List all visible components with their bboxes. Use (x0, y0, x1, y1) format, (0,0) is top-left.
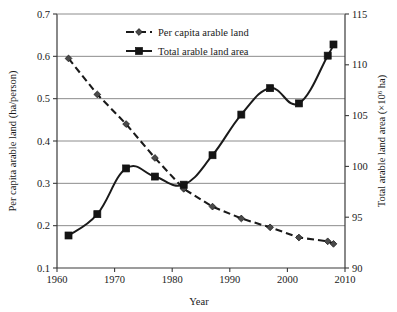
y-axis-tick-label: 0.7 (37, 9, 50, 20)
x-axis-tick-label: 1990 (219, 274, 240, 285)
x-axis-tick-label: 1980 (162, 274, 183, 285)
x-axis-tick-label: 2010 (335, 274, 356, 285)
y-axis-tick-label: 0.3 (37, 178, 50, 189)
y2-axis-tick-label: 115 (352, 9, 367, 20)
data-point-square (65, 232, 72, 239)
y-axis-tick-label: 0.4 (37, 136, 51, 147)
x-axis-title: Year (189, 296, 209, 307)
data-point-square (295, 100, 302, 107)
data-point-square (151, 173, 158, 180)
chart-figure: 0.10.20.30.40.50.60.79095100105110115196… (0, 0, 397, 312)
x-axis-tick-label: 1970 (104, 274, 125, 285)
chart-canvas: 0.10.20.30.40.50.60.79095100105110115196… (0, 0, 397, 312)
y-axis-tick-label: 0.5 (37, 93, 50, 104)
data-point-square (123, 165, 130, 172)
legend-label: Total arable land area (158, 46, 249, 57)
y2-axis-tick-label: 100 (352, 161, 368, 172)
y2-axis-tick-label: 95 (352, 212, 363, 223)
x-axis-tick-label: 1960 (47, 274, 68, 285)
data-point-square (209, 152, 216, 159)
y2-axis-tick-label: 105 (352, 110, 368, 121)
y-axis-tick-label: 0.1 (37, 263, 50, 274)
y2-axis-tick-label: 110 (352, 59, 367, 70)
data-point-square (330, 41, 337, 48)
data-point-square (136, 48, 143, 55)
data-point-square (267, 85, 274, 92)
y2-title-prefix: Total arable land area (×10 (376, 94, 388, 207)
y-axis-tick-label: 0.2 (37, 220, 50, 231)
data-point-square (238, 111, 245, 118)
data-point-square (94, 211, 101, 218)
y-axis-title: Per capita arable land (ha/person) (7, 70, 19, 212)
data-point-square (324, 52, 331, 59)
y2-title-suffix: ha) (376, 74, 388, 91)
y2-axis-tick-label: 90 (352, 263, 363, 274)
x-axis-tick-label: 2000 (277, 274, 298, 285)
legend-label: Per capita arable land (158, 27, 249, 38)
data-point-square (180, 181, 187, 188)
y-axis-tick-label: 0.6 (37, 51, 50, 62)
